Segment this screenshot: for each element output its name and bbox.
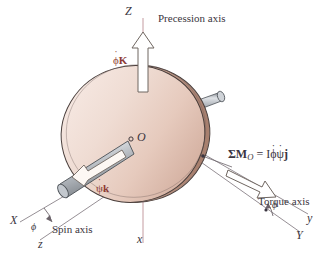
torque-axis-label: Torque axis <box>258 196 309 207</box>
moment-equation: ΣMO = Iϕ˙ψ˙j <box>228 148 288 162</box>
angle-phi-right-label: ϕ <box>272 200 277 210</box>
axis-label-Z: Z <box>125 5 132 17</box>
moment-anchor-dot <box>201 154 205 158</box>
angle-vertex-dot-right <box>264 208 267 211</box>
phi-dot-symbol: ϕ ˙ <box>113 55 119 66</box>
precession-vector-label: ϕ ˙ K <box>113 55 127 66</box>
axis-label-y-lower: y <box>307 212 312 224</box>
figure-canvas: Z Precession axis ϕ ˙ K O ΣMO = Iϕ˙ψ˙j T… <box>0 0 324 256</box>
spin-axis-label: Spin axis <box>52 224 93 235</box>
precession-axis-label: Precession axis <box>158 13 226 24</box>
axis-label-X-upper: X <box>10 214 17 226</box>
spin-vector-label: ψ ˙ k <box>96 183 109 194</box>
angle-phi-left-label: ϕ <box>31 222 36 232</box>
torque-vector-arrow <box>226 170 276 198</box>
axis-label-x-lower: x <box>137 233 142 245</box>
gyroscope-diagram <box>0 0 324 256</box>
psi-dot-symbol: ψ ˙ <box>96 183 103 194</box>
axis-label-z-lower: z <box>38 238 43 250</box>
axis-label-Y-upper: Y <box>296 229 303 241</box>
point-O-label: O <box>137 131 146 143</box>
